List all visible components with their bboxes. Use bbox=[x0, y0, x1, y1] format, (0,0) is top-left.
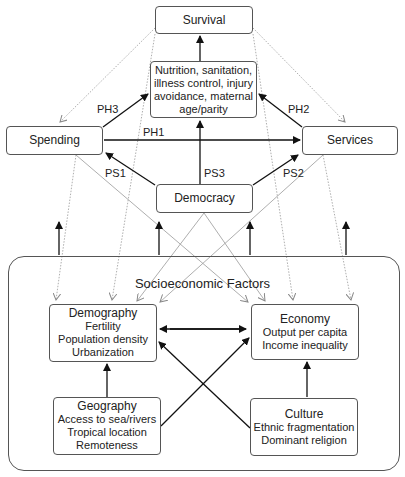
node-title: Geography bbox=[77, 400, 136, 413]
node-line: Urbanization bbox=[72, 346, 134, 359]
node-line: age/parity bbox=[179, 103, 227, 116]
node-spending: Spending bbox=[6, 126, 103, 155]
node-geography: Geography Access to sea/rivers Tropical … bbox=[53, 397, 161, 455]
node-services: Services bbox=[302, 126, 398, 155]
node-line: Dominant religion bbox=[261, 434, 347, 447]
node-line: Remoteness bbox=[76, 439, 138, 452]
node-proximate-determinants: Nutrition, sanitation, illness control, … bbox=[150, 61, 257, 118]
node-line: Output per capita bbox=[263, 326, 347, 339]
node-economy: Economy Output per capita Income inequal… bbox=[251, 304, 359, 360]
node-democracy: Democracy bbox=[156, 184, 253, 213]
edge-label-ps1: PS1 bbox=[105, 167, 126, 179]
node-line: Ethnic fragmentation bbox=[254, 421, 355, 434]
node-line: Nutrition, sanitation, bbox=[155, 64, 252, 77]
node-title: Demography bbox=[69, 307, 138, 320]
node-survival: Survival bbox=[155, 6, 253, 34]
edge-label-ps2: PS2 bbox=[283, 167, 304, 179]
edge-label-ph2: PH2 bbox=[288, 103, 309, 115]
node-title: Services bbox=[327, 134, 373, 147]
edge-label-ps3: PS3 bbox=[204, 167, 225, 179]
node-title: Democracy bbox=[174, 192, 235, 205]
node-line: Fertility bbox=[85, 320, 120, 333]
node-demography: Demography Fertility Population density … bbox=[49, 304, 157, 362]
node-title: Economy bbox=[280, 313, 330, 326]
node-line: Income inequality bbox=[262, 339, 348, 352]
node-line: illness control, injury bbox=[154, 77, 253, 90]
node-line: Access to sea/rivers bbox=[58, 413, 156, 426]
node-line: avoidance, maternal bbox=[154, 90, 253, 103]
node-culture: Culture Ethnic fragmentation Dominant re… bbox=[250, 398, 358, 456]
node-line: Tropical location bbox=[67, 426, 147, 439]
node-title: Survival bbox=[183, 14, 226, 27]
edge-label-ph3: PH3 bbox=[97, 103, 118, 115]
node-title: Spending bbox=[29, 134, 80, 147]
edge-label-ph1: PH1 bbox=[143, 126, 164, 138]
node-line: Population density bbox=[58, 333, 148, 346]
group-title: Socioeconomic Factors bbox=[0, 276, 405, 291]
node-title: Culture bbox=[285, 408, 324, 421]
